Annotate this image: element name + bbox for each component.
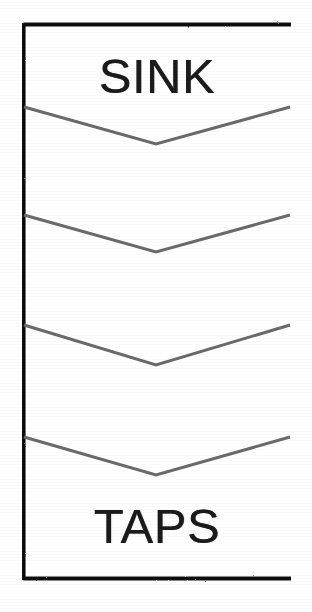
scanned-page: SINK TAPS [0, 0, 312, 612]
panel-label-sink: SINK [22, 52, 292, 101]
panel-drawing [22, 23, 292, 580]
panel-label-taps: TAPS [22, 502, 292, 551]
bordered-panel: SINK TAPS [22, 23, 292, 580]
panel-fill [22, 23, 292, 580]
